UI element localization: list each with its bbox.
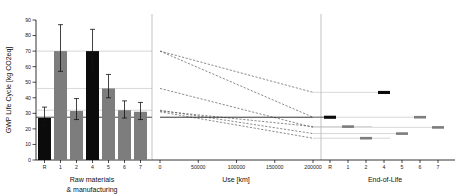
x-tick-0: 0 bbox=[159, 160, 162, 170]
x-tick-200000: 200000 bbox=[304, 160, 321, 170]
eol-tick-1: 1 bbox=[347, 160, 350, 170]
panel1-title-line1: Raw materials bbox=[70, 176, 115, 183]
eol-tick-6: 6 bbox=[419, 160, 422, 170]
y-tick-0: 0 bbox=[28, 157, 36, 163]
eol-marker-4[interactable] bbox=[378, 91, 390, 94]
y-tick-10: 10 bbox=[25, 141, 36, 147]
x-tick-label-7: 7 bbox=[139, 164, 142, 170]
eol-marker-5[interactable] bbox=[396, 132, 408, 135]
y-tick-30: 30 bbox=[25, 110, 36, 116]
bar-group-4[interactable]: 4 bbox=[86, 29, 99, 170]
x-tick-label-4: 4 bbox=[91, 164, 94, 170]
bar-group-5[interactable]: 5 bbox=[102, 74, 115, 170]
x-tick-label-R: R bbox=[43, 164, 47, 170]
bar-group-6[interactable]: 6 bbox=[118, 101, 131, 170]
y-tick-label-50: 50 bbox=[25, 79, 31, 85]
use-line-2 bbox=[160, 111, 313, 127]
y-tick-80: 80 bbox=[25, 32, 36, 38]
eol-tick-7: 7 bbox=[437, 160, 440, 170]
y-tick-50: 50 bbox=[25, 79, 36, 85]
bar-group-2[interactable]: 2 bbox=[70, 99, 83, 170]
eol-tick-4: 4 bbox=[383, 160, 386, 170]
x-tick-label-eol-7: 7 bbox=[437, 164, 440, 170]
bar-group-7[interactable]: 7 bbox=[134, 102, 147, 170]
y-tick-label-10: 10 bbox=[25, 141, 31, 147]
eol-marker-1[interactable] bbox=[342, 125, 354, 128]
use-line-6 bbox=[160, 110, 313, 133]
x-tick-label-eol-5: 5 bbox=[401, 164, 404, 170]
use-line-4 bbox=[160, 51, 313, 117]
panel-use: 0 50000 100000 150000 200000 bbox=[152, 51, 322, 184]
x-tick-label-use-100000: 100000 bbox=[228, 164, 245, 170]
use-line-1 bbox=[160, 51, 313, 92]
bar-group-1[interactable]: 1 bbox=[54, 25, 67, 170]
x-tick-label-1: 1 bbox=[59, 164, 62, 170]
x-tick-label-use-50000: 50000 bbox=[191, 164, 206, 170]
eol-tick-2: 2 bbox=[365, 160, 368, 170]
x-tick-label-5: 5 bbox=[107, 164, 110, 170]
x-tick-label-2: 2 bbox=[75, 164, 78, 170]
panel3-title: End-of-Life bbox=[368, 176, 402, 183]
x-tick-label-use-150000: 150000 bbox=[266, 164, 283, 170]
bar-group-R[interactable]: R bbox=[38, 107, 51, 170]
eol-marker-7[interactable] bbox=[432, 126, 444, 129]
eol-tick-R: R bbox=[328, 160, 332, 170]
x-tick-label-eol-6: 6 bbox=[419, 164, 422, 170]
panel1-title-line2: & manufacturing bbox=[67, 186, 118, 194]
x-tick-label-use-0: 0 bbox=[159, 164, 162, 170]
chart-svg: 0 10 20 30 40 50 bbox=[0, 0, 462, 196]
y-tick-label-90: 90 bbox=[25, 17, 31, 23]
x-tick-label-eol-2: 2 bbox=[365, 164, 368, 170]
y-axis-title: GWP Life Cycle [kg CO2eq] bbox=[5, 47, 13, 134]
x-tick-label-eol-4: 4 bbox=[383, 164, 386, 170]
y-tick-label-80: 80 bbox=[25, 32, 31, 38]
y-tick-label-40: 40 bbox=[25, 95, 31, 101]
y-tick-label-70: 70 bbox=[25, 48, 31, 54]
panel-end-of-life: R 1 2 4 5 6 7 bbox=[313, 91, 455, 183]
y-tick-40: 40 bbox=[25, 95, 36, 101]
y-tick-20: 20 bbox=[25, 126, 36, 132]
eol-marker-R[interactable] bbox=[324, 116, 336, 119]
panel-raw-materials: R 1 2 bbox=[36, 25, 152, 194]
eol-marker-2[interactable] bbox=[360, 137, 372, 140]
y-tick-label-0: 0 bbox=[28, 157, 31, 163]
y-tick-70: 70 bbox=[25, 48, 36, 54]
lca-gwp-figure: 0 10 20 30 40 50 bbox=[0, 0, 462, 196]
use-line-5 bbox=[160, 88, 313, 127]
bar-5[interactable] bbox=[102, 88, 115, 160]
eol-tick-5: 5 bbox=[401, 160, 404, 170]
y-axis: 0 10 20 30 40 50 bbox=[5, 17, 36, 163]
x-tick-label-eol-R: R bbox=[328, 164, 332, 170]
x-tick-50000: 50000 bbox=[191, 160, 206, 170]
y-tick-label-20: 20 bbox=[25, 126, 31, 132]
x-tick-150000: 150000 bbox=[266, 160, 283, 170]
y-tick-label-30: 30 bbox=[25, 110, 31, 116]
y-tick-label-60: 60 bbox=[25, 64, 31, 70]
y-tick-90: 90 bbox=[25, 17, 36, 23]
x-tick-label-use-200000: 200000 bbox=[304, 164, 321, 170]
use-line-7 bbox=[160, 112, 313, 138]
x-tick-label-eol-1: 1 bbox=[347, 164, 350, 170]
eol-marker-6[interactable] bbox=[414, 116, 426, 119]
panel2-title: Use [km] bbox=[222, 176, 250, 184]
x-tick-100000: 100000 bbox=[228, 160, 245, 170]
x-tick-label-6: 6 bbox=[123, 164, 126, 170]
y-tick-60: 60 bbox=[25, 64, 36, 70]
